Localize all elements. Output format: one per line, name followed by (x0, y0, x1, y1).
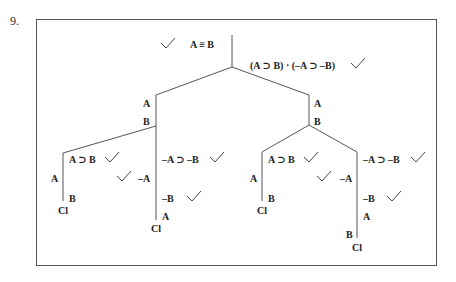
root-left-edge (156, 67, 232, 95)
lr-right-leaf-line-2: A (162, 212, 169, 222)
right-branch-line-2: B (314, 117, 321, 127)
rl-closed-marker: Cl (257, 206, 267, 216)
rr-right-leaf-line-3: B (346, 230, 353, 240)
root-right-edge (232, 67, 309, 95)
lr-decomposed-formula: –A ⊃ –B (162, 155, 199, 165)
lr-left-leaf-line-1: –A (138, 174, 150, 184)
rl-decomposed-formula: A ⊃ B (268, 155, 295, 165)
premise-formula: A ≡ B (190, 40, 214, 50)
lr-closed-marker: Cl (151, 224, 161, 234)
checkmark-icon (350, 57, 366, 69)
rl-left-leaf-line-1: A (250, 174, 257, 184)
checkmark-icon (386, 190, 402, 202)
checkmark-icon (116, 170, 132, 182)
checkmark-icon (316, 170, 332, 182)
tree-lines (0, 0, 456, 282)
rr-right-leaf-line-1: –B (363, 194, 375, 204)
negated-conclusion-formula: (A ⊃ B) · (–A ⊃ –B) (250, 61, 335, 71)
right-fork-left-edge (262, 125, 309, 152)
ll-left-leaf-line-1: A (51, 174, 58, 184)
checkmark-icon (186, 190, 202, 202)
checkmark-icon (410, 151, 426, 163)
ll-decomposed-formula: A ⊃ B (69, 155, 96, 165)
rr-closed-marker: Cl (352, 243, 362, 253)
left-fork-edge (63, 126, 156, 153)
checkmark-icon (104, 151, 120, 163)
rr-left-leaf-line-1: –A (340, 174, 352, 184)
right-branch-line-1: A (314, 99, 321, 109)
checkmark-icon (303, 151, 319, 163)
right-fork-right-edge (309, 125, 357, 152)
left-branch-line-2: B (143, 117, 150, 127)
lr-right-leaf-line-1: –B (162, 194, 174, 204)
rr-decomposed-formula: –A ⊃ –B (363, 155, 400, 165)
left-branch-line-1: A (143, 99, 150, 109)
checkmark-icon (160, 37, 176, 49)
rl-right-leaf-line-1: B (268, 194, 275, 204)
rr-right-leaf-line-2: A (363, 212, 370, 222)
ll-right-leaf-line-1: B (69, 194, 76, 204)
ll-closed-marker: Cl (58, 206, 68, 216)
checkmark-icon (209, 151, 225, 163)
